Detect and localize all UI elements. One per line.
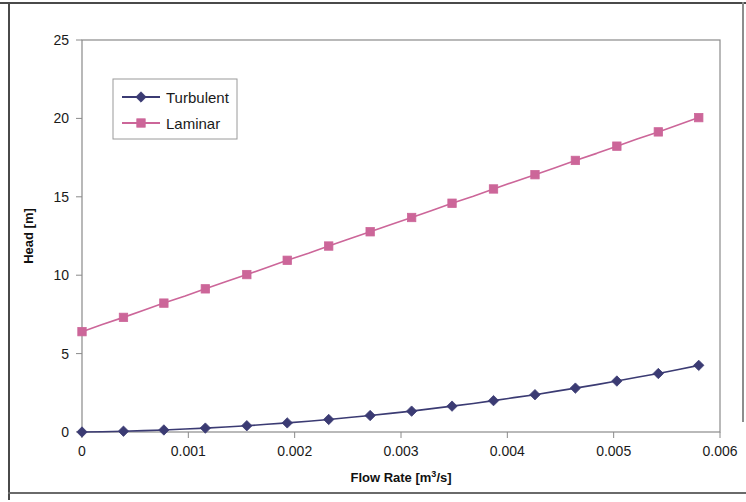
data-point-marker [78,327,86,335]
line-chart-plot: 00.0010.0020.0030.0040.0050.006 05101520… [0,0,746,502]
legend-entry-label: Turbulent [166,89,230,106]
data-point-marker [571,156,579,164]
data-point-marker [283,256,291,264]
y-tick-label: 20 [53,110,69,126]
x-axis-title-base: Flow Rate [m [350,470,431,485]
y-axis-title: Head [m] [21,208,36,264]
data-point-marker [137,119,145,127]
x-tick-label: 0 [78,443,86,459]
data-point-marker [489,185,497,193]
x-axis-title: Flow Rate [m3/s] [350,469,451,485]
x-axis-title-tail: /s] [436,470,451,485]
data-point-marker [407,213,415,221]
data-point-marker [201,285,209,293]
y-tick-label: 15 [53,189,69,205]
y-tick-label: 25 [53,32,69,48]
x-axis-ticks [82,432,720,438]
data-point-marker [448,199,456,207]
data-point-marker [243,270,251,278]
x-axis-tick-labels: 00.0010.0020.0030.0040.0050.006 [78,443,738,459]
data-point-marker [695,113,703,121]
y-axis-ticks [76,40,82,432]
data-point-marker [160,299,168,307]
x-tick-label: 0.003 [383,443,418,459]
chart-legend: TurbulentLaminar [113,79,237,139]
x-tick-label: 0.001 [171,443,206,459]
x-tick-label: 0.006 [702,443,737,459]
y-axis-tick-labels: 0510152025 [53,32,69,440]
x-tick-label: 0.002 [277,443,312,459]
y-tick-label: 10 [53,267,69,283]
data-point-marker [366,228,374,236]
chart-figure: 00.0010.0020.0030.0040.0050.006 05101520… [0,0,746,502]
data-point-marker [613,142,621,150]
y-tick-label: 0 [61,424,69,440]
data-point-marker [119,313,127,321]
data-point-marker [324,242,332,250]
legend-entry-label: Laminar [166,115,220,132]
x-tick-label: 0.004 [490,443,525,459]
data-point-marker [654,128,662,136]
y-tick-label: 5 [61,346,69,362]
data-point-marker [531,170,539,178]
x-tick-label: 0.005 [596,443,631,459]
